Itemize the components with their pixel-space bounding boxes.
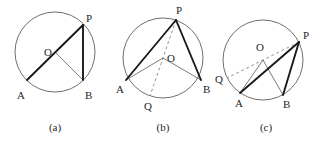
point-label-b-b: B (203, 83, 210, 95)
point-label-a-a: A (17, 89, 25, 101)
point-label-b-c: B (283, 98, 290, 110)
point-label-o-b: O (167, 52, 175, 64)
segment-PB-b (176, 20, 201, 80)
figure-panel-c: OPABQ(c) (215, 20, 309, 134)
point-label-a-b: A (116, 83, 124, 95)
segment-AP-b (126, 20, 176, 80)
point-label-o-c: O (256, 41, 264, 53)
panel-caption-c: (c) (260, 121, 273, 134)
figure-panel-a: OPAB(a) (15, 12, 95, 134)
point-label-p-b: P (176, 4, 182, 16)
point-label-q-c: Q (215, 73, 223, 85)
point-label-q-b: Q (144, 100, 152, 112)
point-label-p-a: P (86, 12, 92, 24)
point-label-a-c: A (235, 97, 243, 109)
geometry-figure-root: OPAB(a)OPABQ(b)OPABQ(c) (0, 0, 328, 142)
panel-caption-b: (b) (157, 121, 170, 134)
radius-OA-b (126, 58, 163, 80)
figure-panel-b: OPABQ(b) (116, 4, 210, 134)
geometry-figure-canvas: OPAB(a)OPABQ(b)OPABQ(c) (0, 0, 328, 142)
point-label-b-a: B (85, 89, 92, 101)
radius-OB-a (55, 52, 83, 80)
point-label-o-a: O (44, 46, 52, 58)
panel-caption-a: (a) (49, 121, 62, 134)
point-label-p-c: P (303, 29, 309, 41)
